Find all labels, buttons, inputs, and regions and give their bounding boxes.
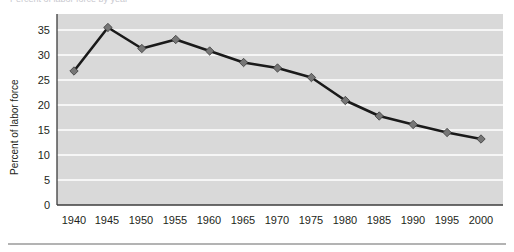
bottom-horizontal-rule xyxy=(8,243,506,245)
x-tick-label: 1940 xyxy=(62,214,86,226)
y-tick-label: 25 xyxy=(38,74,50,86)
y-tick-label: 30 xyxy=(38,49,50,61)
x-tick-label: 1985 xyxy=(367,214,391,226)
x-tick-label: 2000 xyxy=(469,214,493,226)
x-tick-label: 1955 xyxy=(163,214,187,226)
x-tick-label: 1995 xyxy=(435,214,459,226)
x-tick-label: 1975 xyxy=(299,214,323,226)
y-tick-label: 10 xyxy=(38,149,50,161)
x-tick-label: 1945 xyxy=(95,214,119,226)
y-tick-label: 35 xyxy=(38,24,50,36)
line-chart: 35 30 25 20 15 10 5 0 Percent of labor f… xyxy=(0,0,514,236)
y-tick-label: 20 xyxy=(38,99,50,111)
y-axis-tick-labels: 35 30 25 20 15 10 5 0 xyxy=(38,24,50,211)
y-tick-label: 15 xyxy=(38,124,50,136)
y-tick-label: 0 xyxy=(44,199,50,211)
x-tick-label: 1965 xyxy=(231,214,255,226)
x-tick-label: 1970 xyxy=(265,214,289,226)
x-tick-label: 1990 xyxy=(401,214,425,226)
x-tick-label: 1960 xyxy=(197,214,221,226)
figure-container: Percent of labor force by year 35 30 xyxy=(0,0,514,252)
x-axis-tick-labels: 1940 1945 1950 1955 1960 1965 1970 1975 … xyxy=(62,214,493,226)
y-axis-title: Percent of labor force xyxy=(9,79,20,175)
chart-svg: 35 30 25 20 15 10 5 0 Percent of labor f… xyxy=(0,0,514,236)
plot-background xyxy=(57,14,503,205)
x-tick-label: 1950 xyxy=(129,214,153,226)
y-tick-label: 5 xyxy=(44,174,50,186)
x-tick-label: 1980 xyxy=(333,214,357,226)
